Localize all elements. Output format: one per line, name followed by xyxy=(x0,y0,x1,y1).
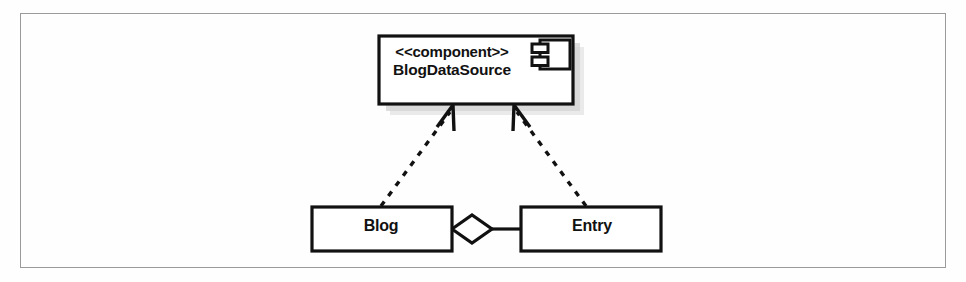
realization-entry-to-component xyxy=(513,105,586,206)
aggregation-diamond xyxy=(452,215,492,243)
uml-component-diagram-figure: <<component>> BlogDataSource Blog Entry xyxy=(0,0,966,282)
component-node[interactable] xyxy=(379,36,573,104)
aggregation-blog-entry xyxy=(452,215,523,243)
class-node-entry[interactable] xyxy=(521,207,661,251)
class-node-blog[interactable] xyxy=(312,207,452,251)
realization-blog-to-component xyxy=(381,105,454,206)
diagram-canvas xyxy=(0,0,966,282)
